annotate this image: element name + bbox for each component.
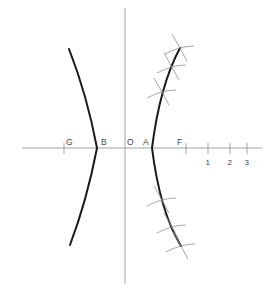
point-label-o: O (127, 137, 134, 147)
scale-tick-label: 2 (228, 158, 233, 167)
hyperbola-right-branch (152, 48, 181, 246)
scale-ticks: 123 (64, 143, 250, 167)
point-label-g: G (66, 137, 73, 147)
scale-tick-label: 1 (206, 158, 211, 167)
point-label-b: B (101, 137, 107, 147)
point-labels: GBOAF (66, 137, 182, 147)
construction-crossing (157, 53, 186, 80)
construction-crossing (165, 34, 194, 61)
hyperbola-left-branch (69, 49, 97, 245)
scale-tick-label: 3 (245, 158, 250, 167)
hyperbola-diagram: 123 GBOAF (0, 0, 277, 296)
construction-crossing (147, 186, 176, 213)
point-label-a: A (143, 137, 149, 147)
construction-crossing (166, 232, 195, 259)
construction-crossing (157, 213, 186, 240)
point-label-f: F (177, 137, 182, 147)
